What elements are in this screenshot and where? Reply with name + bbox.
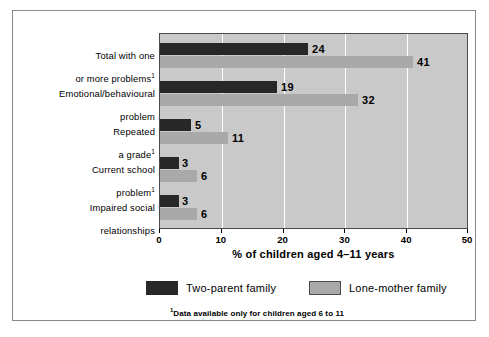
bar-label-lone-mother-repeated: 11 (232, 132, 244, 144)
bar-label-two-parent-school: 3 (182, 157, 188, 169)
legend-entry-lone-mother: Lone-mother family (309, 281, 447, 295)
figure-frame: 24 41 19 32 5 11 3 6 3 6 To (12, 10, 476, 321)
bar-label-two-parent-total: 24 (312, 43, 325, 55)
tick-mark-10 (221, 229, 222, 233)
category-label-repeated-line1: Repeated (113, 126, 155, 137)
bar-two-parent-emotional (160, 81, 277, 93)
bar-label-two-parent-emotional: 19 (281, 81, 294, 93)
bar-two-parent-social (160, 195, 179, 207)
bar-label-two-parent-repeated: 5 (195, 119, 201, 131)
x-axis-title: % of children aged 4–11 years (159, 248, 468, 260)
footnote-text: Data available only for children aged 6 … (173, 309, 344, 318)
tick-mark-30 (344, 229, 345, 233)
tick-label-20: 20 (270, 234, 296, 245)
bar-two-parent-school (160, 157, 179, 169)
legend-swatch-lone-mother-icon (309, 281, 341, 295)
tick-mark-40 (406, 229, 407, 233)
tick-label-50: 50 (454, 234, 480, 245)
category-label-school-line1: Current school (92, 164, 155, 175)
bar-lone-mother-social (160, 208, 197, 220)
legend-label-two-parent: Two-parent family (186, 282, 276, 294)
bar-two-parent-total (160, 43, 308, 55)
bar-lone-mother-school (160, 170, 197, 182)
tick-label-10: 10 (208, 234, 234, 245)
tick-mark-50 (467, 229, 468, 233)
bar-label-lone-mother-emotional: 32 (362, 94, 375, 106)
chart-figure: 24 41 19 32 5 11 3 6 3 6 To (0, 0, 489, 337)
bar-label-lone-mother-total: 41 (417, 56, 430, 68)
category-label-total-line1: Total with one (96, 50, 155, 61)
bar-label-two-parent-social: 3 (182, 195, 188, 207)
tick-label-0: 0 (146, 234, 172, 245)
bar-two-parent-repeated (160, 119, 191, 131)
legend-label-lone-mother: Lone-mother family (349, 282, 447, 294)
tick-mark-0 (159, 229, 160, 233)
plot-area: 24 41 19 32 5 11 3 6 3 6 (159, 33, 468, 229)
legend-entry-two-parent: Two-parent family (146, 281, 276, 295)
tick-label-40: 40 (393, 234, 419, 245)
category-label-social-line1: Impaired social (90, 202, 155, 213)
category-label-emotional-line1: Emotional/behavioural (59, 88, 155, 99)
chart-footnote: 1Data available only for children aged 6… (25, 309, 489, 318)
bar-label-lone-mother-school: 6 (201, 170, 207, 182)
bar-lone-mother-emotional (160, 94, 358, 106)
category-label-social: Impaired social relationships (31, 191, 155, 237)
chart-legend: Two-parent family Lone-mother family (146, 281, 476, 299)
tick-mark-20 (283, 229, 284, 233)
tick-label-30: 30 (331, 234, 357, 245)
bar-lone-mother-repeated (160, 132, 228, 144)
category-axis-labels: Total with one or more problems1 Emotion… (31, 33, 155, 229)
bar-label-lone-mother-social: 6 (201, 208, 207, 220)
bar-lone-mother-total (160, 56, 413, 68)
legend-swatch-two-parent-icon (146, 281, 178, 295)
